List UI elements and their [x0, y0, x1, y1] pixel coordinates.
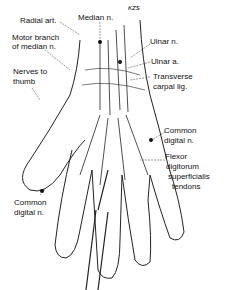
label-motor-branch-line2: of median n.	[12, 42, 56, 51]
ring-finger-outline	[122, 175, 151, 266]
label-radial-artery: Radial art.	[20, 16, 56, 25]
label-nerves-to-thumb-line2: thumb	[13, 77, 35, 86]
label-transverse-carpal-line2: carpal lig.	[153, 82, 187, 91]
needle	[98, 170, 108, 210]
tendons	[100, 25, 128, 115]
signature: KZS	[128, 5, 140, 11]
label-ulnar-artery: Ulnar a.	[151, 57, 179, 66]
label-common-digital-right-line1: Common	[164, 126, 196, 135]
label-median-nerve: Median n.	[78, 13, 113, 22]
label-flexor-line3: superficialis	[168, 172, 210, 181]
label-nerves-to-thumb-line1: Nerves to	[13, 67, 47, 76]
label-flexor-line2: digitorum	[166, 162, 199, 171]
label-common-digital-left-line2: digital n.	[14, 208, 44, 217]
wrist-ulnar-edge	[140, 20, 150, 95]
label-flexor-line1: Flexor	[165, 152, 187, 161]
label-ulnar-nerve: Ulnar n.	[150, 37, 178, 46]
label-motor-branch-line1: Motor branch	[12, 33, 59, 42]
label-common-digital-right-line2: digital n.	[164, 136, 194, 145]
transverse-carpal-ligament	[82, 68, 145, 90]
digital-nerves	[80, 115, 148, 185]
label-flexor-line4: tendons	[172, 182, 200, 191]
label-common-digital-left-line1: Common	[14, 198, 46, 207]
label-transverse-carpal-line1: Transverse	[153, 72, 193, 81]
wrist-radial-edge	[70, 40, 80, 95]
thumb-outline	[23, 95, 86, 191]
index-finger-outline	[55, 150, 92, 258]
